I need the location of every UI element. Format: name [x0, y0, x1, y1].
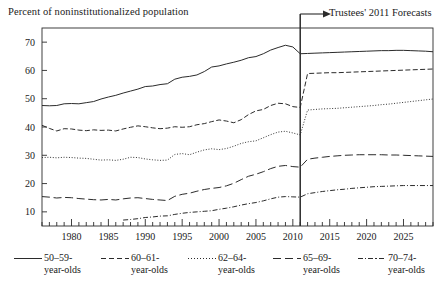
legend-label-60-61-line2: year-olds	[131, 264, 185, 276]
svg-text:10: 10	[25, 206, 35, 217]
legend-label-65-69-line1: 65–69-	[303, 252, 357, 264]
legend-label-65-69-line2: year-olds	[303, 264, 357, 276]
legend-swatch-62-64	[188, 258, 216, 259]
svg-text:50: 50	[25, 93, 35, 104]
legend-item-65-69: 65–69- year-olds	[273, 252, 357, 275]
legend-item-60-61: 60–61- year-olds	[101, 252, 185, 275]
annotation-arrow-icon	[300, 11, 331, 18]
chart-container: Percent of noninstitutionalized populati…	[0, 0, 443, 296]
legend-item-62-64: 62–64- year-olds	[188, 252, 272, 275]
svg-text:60: 60	[25, 65, 35, 76]
axis-ticks	[42, 42, 433, 226]
legend-swatch-65-69	[273, 258, 301, 259]
legend-item-70-74: 70–74- year-olds	[358, 252, 442, 275]
legend-label-50-59-line2: year-olds	[44, 264, 98, 276]
svg-text:1995: 1995	[172, 231, 192, 242]
legend-swatch-50-59	[14, 258, 42, 259]
series-line-65-69	[42, 155, 433, 201]
series-line-62-64	[42, 99, 433, 160]
legend-label-70-74-line2: year-olds	[388, 264, 442, 276]
x-tick-labels: 1980198519901995200020052010201520202025	[62, 231, 414, 242]
svg-text:70: 70	[25, 37, 35, 48]
svg-text:2005: 2005	[246, 231, 266, 242]
svg-text:1980: 1980	[62, 231, 82, 242]
svg-text:2000: 2000	[209, 231, 229, 242]
plot-frame	[42, 28, 433, 226]
legend-swatch-70-74	[358, 258, 386, 259]
svg-text:20: 20	[25, 178, 35, 189]
series-line-70-74	[123, 186, 433, 221]
svg-text:2025: 2025	[393, 231, 413, 242]
legend-item-50-59: 50–59- year-olds	[14, 252, 98, 275]
svg-text:1990: 1990	[135, 231, 155, 242]
legend-label-62-64-line1: 62–64-	[218, 252, 272, 264]
svg-text:2010: 2010	[283, 231, 303, 242]
svg-text:30: 30	[25, 150, 35, 161]
svg-text:2020: 2020	[357, 231, 377, 242]
legend-label-50-59-line1: 50–59-	[44, 252, 98, 264]
legend-label-70-74-line1: 70–74-	[388, 252, 442, 264]
plot-svg: 10203040506070 1980198519901995200020052…	[0, 0, 443, 252]
legend-swatch-60-61	[101, 258, 129, 259]
legend-label-62-64-line2: year-olds	[218, 264, 272, 276]
series-line-60-61	[42, 69, 433, 131]
svg-text:40: 40	[25, 122, 35, 133]
chart-legend: 50–59- year-olds 60–61- year-olds 62–64-…	[0, 252, 443, 296]
svg-text:1985: 1985	[98, 231, 118, 242]
legend-label-60-61-line1: 60–61-	[131, 252, 185, 264]
series-line-50-59	[42, 45, 433, 106]
svg-text:2015: 2015	[320, 231, 340, 242]
y-tick-labels: 10203040506070	[25, 37, 35, 218]
data-series-group	[42, 45, 433, 220]
